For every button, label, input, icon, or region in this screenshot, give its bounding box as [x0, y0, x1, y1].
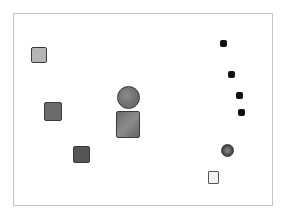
- large-circle-shape: [117, 86, 140, 109]
- outline-square-shape: [208, 171, 219, 184]
- dark-square-shape-2: [73, 146, 90, 163]
- dot-shape-3: [236, 92, 243, 99]
- dark-square-shape: [44, 102, 62, 121]
- dot-shape-2: [228, 71, 235, 78]
- dot-shape-1: [220, 40, 227, 47]
- drawing-canvas: [0, 0, 288, 220]
- small-circle-shape: [221, 144, 234, 157]
- large-square-shape: [116, 111, 140, 138]
- dot-shape-4: [238, 109, 245, 116]
- light-square-shape: [31, 47, 47, 63]
